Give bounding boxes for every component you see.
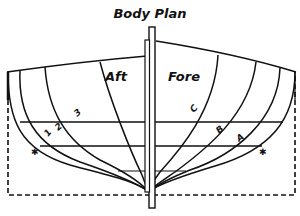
section-label-3: 3 xyxy=(72,107,83,119)
stem-post-inner xyxy=(145,40,150,192)
section-label-B: B xyxy=(214,123,226,135)
body-plan-diagram: Body Plan Aft Fore 3 2 1 ✱ C B A ✱ xyxy=(0,0,300,216)
sheer-line-fore xyxy=(156,41,296,72)
section-label-1: 1 xyxy=(42,127,54,138)
aft-label: Aft xyxy=(104,69,128,84)
section-label-A: A xyxy=(234,131,246,144)
diagram-title: Body Plan xyxy=(113,6,186,21)
section-label-aft-star: ✱ xyxy=(31,147,39,157)
fore-label: Fore xyxy=(168,69,200,84)
section-label-C: C xyxy=(188,102,200,114)
section-label-fore-star: ✱ xyxy=(259,147,267,157)
aft-section-curves xyxy=(8,62,148,191)
